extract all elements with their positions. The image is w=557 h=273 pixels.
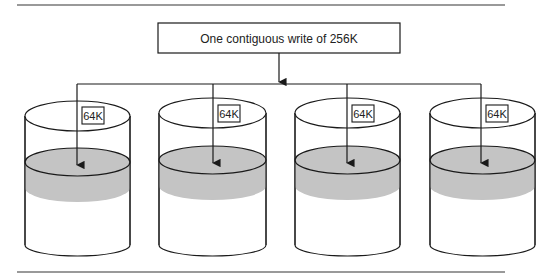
disk-3: 64K [295,84,400,256]
disk-1: 64K [25,84,130,256]
disk-3-chunk-label: 64K [353,108,373,120]
disk-2-chunk-label: 64K [219,108,239,120]
disk-2: 64K [159,84,266,256]
disk-4-chunk-label: 64K [487,108,507,120]
write-request-box: One contiguous write of 256K [158,23,400,53]
write-request-label: One contiguous write of 256K [200,32,357,46]
raid-striping-diagram: One contiguous write of 256K 64K 64K [0,0,557,273]
disk-1-chunk-label: 64K [83,110,103,122]
disk-4: 64K [430,84,535,256]
